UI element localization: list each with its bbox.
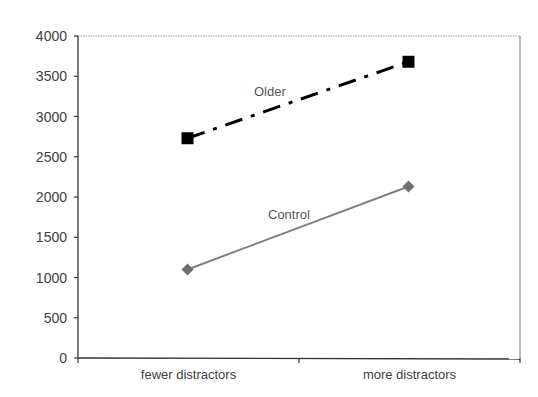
y-tick-label: 1000: [36, 270, 67, 286]
square-marker: [403, 56, 415, 68]
y-tick-label: 0: [59, 350, 67, 366]
plot-area-frame: [78, 36, 520, 358]
x-category-label: more distractors: [363, 367, 457, 382]
y-tick-label: 3000: [36, 109, 67, 125]
y-axis: 05001000150020002500300035004000: [36, 28, 78, 366]
series-layer: [182, 56, 415, 276]
series-label-older: Older: [254, 84, 286, 99]
series-line: [188, 187, 409, 270]
x-category-label: fewer distractors: [141, 367, 237, 382]
x-axis: fewer distractorsmore distractors: [78, 358, 520, 382]
y-tick-label: 4000: [36, 28, 67, 44]
square-marker: [182, 132, 194, 144]
y-tick-label: 2500: [36, 149, 67, 165]
line-chart: 05001000150020002500300035004000 fewer d…: [0, 0, 538, 397]
diamond-marker: [182, 263, 194, 275]
y-tick-label: 500: [44, 310, 68, 326]
series-older: [182, 56, 415, 144]
y-tick-label: 2000: [36, 189, 67, 205]
diamond-marker: [403, 181, 415, 193]
series-label-control: Control: [268, 207, 310, 222]
y-tick-label: 3500: [36, 68, 67, 84]
y-tick-label: 1500: [36, 229, 67, 245]
series-control: [182, 181, 415, 276]
series-line: [188, 62, 409, 138]
